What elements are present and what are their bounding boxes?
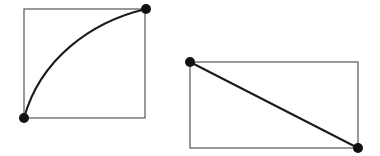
figure-rectangle-with-diagonal bbox=[185, 57, 363, 153]
diagonal-line bbox=[190, 62, 358, 148]
start-point bbox=[185, 57, 195, 67]
start-point bbox=[19, 113, 29, 123]
end-point bbox=[141, 4, 151, 14]
curve bbox=[24, 9, 146, 118]
figure-square-with-curve bbox=[19, 4, 151, 123]
diagram-canvas bbox=[0, 0, 380, 156]
square-frame bbox=[24, 9, 145, 118]
end-point bbox=[353, 143, 363, 153]
